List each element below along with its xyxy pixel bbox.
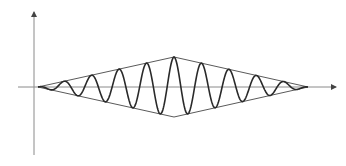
modulated-sine-wave [38,57,308,114]
modulated-wave-diagram [0,0,346,166]
